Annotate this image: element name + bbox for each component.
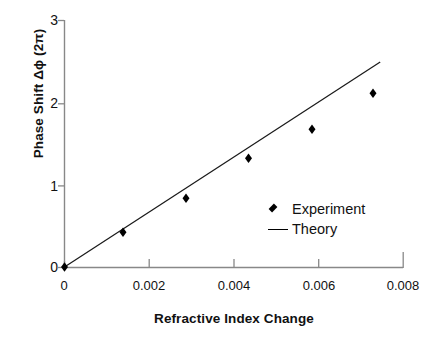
chart-figure: Phase Shift Δϕ (2π) 3 2 1 0 bbox=[0, 0, 436, 344]
data-point-origin bbox=[61, 262, 68, 272]
data-point-4 bbox=[309, 124, 316, 134]
x-tick-label-0: 0 bbox=[29, 278, 99, 293]
data-point-2 bbox=[183, 193, 190, 203]
experiment-series bbox=[61, 88, 377, 271]
x-tick-label-0.008: 0.008 bbox=[368, 278, 436, 293]
x-tick-label-group: 0 0.002 0.004 0.006 0.008 bbox=[0, 278, 436, 300]
x-tick-label-0.004: 0.004 bbox=[199, 278, 269, 293]
legend-label-theory: Theory bbox=[292, 221, 337, 237]
legend-item-experiment: Experiment bbox=[270, 201, 365, 217]
line-marker-icon bbox=[268, 229, 288, 230]
x-axis-label: Refractive Index Change bbox=[64, 311, 404, 326]
x-tick-label-0.002: 0.002 bbox=[114, 278, 184, 293]
legend-item-theory: Theory bbox=[270, 221, 337, 237]
diamond-marker-icon bbox=[269, 204, 278, 213]
legend-label-experiment: Experiment bbox=[292, 201, 365, 217]
data-point-5 bbox=[370, 88, 377, 98]
x-tick-label-0.006: 0.006 bbox=[284, 278, 354, 293]
data-point-3 bbox=[245, 153, 252, 163]
data-point-1 bbox=[120, 227, 127, 237]
